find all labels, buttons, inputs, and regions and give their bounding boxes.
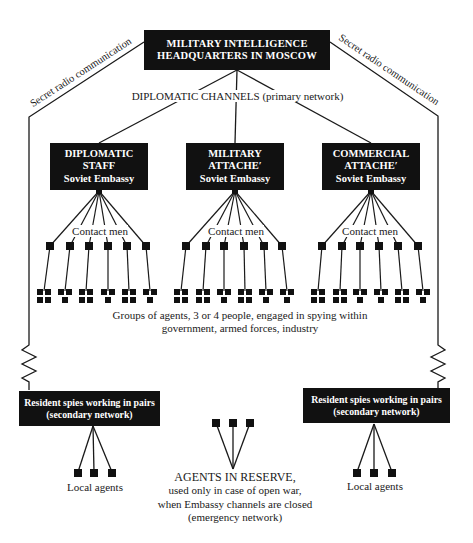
embassy-title: MILITARY [208, 148, 262, 160]
embassy-diplomatic-staff-box: DIPLOMATIC STAFF Soviet Embassy [50, 143, 148, 190]
reserve-line4: (emergency network) [140, 511, 330, 524]
embassy-subtitle: ATTACHE′ [208, 160, 261, 172]
contact-men-label: Contact men [70, 225, 130, 237]
headquarters-line1: MILITARY INTELLIGENCE [166, 38, 307, 50]
reserve-line2: used only in case of open war, [140, 484, 330, 497]
contact-men-label: Contact men [206, 225, 266, 237]
contact-men-text: Contact men [208, 225, 264, 237]
embassy-location: Soviet Embassy [64, 173, 134, 185]
reserve-caption: AGENTS IN RESERVE, used only in case of … [140, 470, 330, 524]
contact-men-label: Contact men [340, 225, 400, 237]
agent-groups-caption-line1: Groups of agents, 3 or 4 people, engaged… [90, 309, 390, 322]
local-agents-label-left: Local agents [60, 481, 130, 493]
agent-groups-caption: Groups of agents, 3 or 4 people, engaged… [90, 309, 390, 335]
resident-spies-box-left: Resident spies working in pairs (seconda… [19, 391, 160, 426]
embassy-title: COMMERCIAL [333, 148, 409, 160]
primary-channel-text: DIPLOMATIC CHANNELS (primary network) [130, 90, 346, 102]
resident-spies-title: Resident spies working in pairs [24, 397, 155, 409]
local-agents-label-right: Local agents [340, 480, 410, 492]
reserve-line3: when Embassy channels are closed [140, 498, 330, 511]
headquarters-box: MILITARY INTELLIGENCE HEADQUARTERS IN MO… [144, 30, 330, 70]
primary-channel-label: DIPLOMATIC CHANNELS (primary network) [100, 90, 375, 102]
embassy-military-attache-box: MILITARY ATTACHE′ Soviet Embassy [186, 143, 284, 190]
resident-spies-box-right: Resident spies working in pairs (seconda… [303, 388, 450, 423]
contact-men-text: Contact men [72, 225, 128, 237]
resident-spies-title: Resident spies working in pairs [311, 394, 442, 406]
embassy-location: Soviet Embassy [200, 173, 270, 185]
embassy-subtitle: STAFF [83, 160, 115, 172]
embassy-commercial-attache-box: COMMERCIAL ATTACHE′ Soviet Embassy [322, 143, 420, 190]
reserve-title: AGENTS IN RESERVE, [140, 470, 330, 484]
agent-groups-caption-line2: government, armed forces, industry [90, 322, 390, 335]
contact-men-text: Contact men [342, 225, 398, 237]
embassy-subtitle: ATTACHE′ [344, 160, 397, 172]
embassy-title: DIPLOMATIC [65, 148, 134, 160]
headquarters-line2: HEADQUARTERS IN MOSCOW [157, 50, 317, 62]
resident-spies-subtitle: (secondary network) [46, 409, 132, 421]
resident-spies-subtitle: (secondary network) [333, 406, 419, 418]
embassy-location: Soviet Embassy [336, 173, 406, 185]
